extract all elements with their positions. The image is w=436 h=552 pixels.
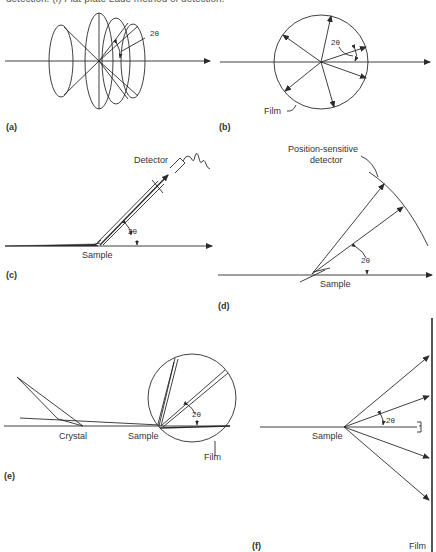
sample-label-e: Sample — [128, 431, 159, 441]
angle-label-d: 2θ — [361, 256, 370, 265]
film-label-e: Film — [204, 452, 221, 462]
detector-icon — [170, 158, 185, 173]
angle-label-f: 2θ — [386, 416, 395, 425]
diffraction-geometries-diagram: 2θ (a) 2θ Film (b) Detector 2θ Sample (c… — [0, 0, 436, 552]
beam-stop-icon — [417, 422, 421, 432]
sample-label-d: Sample — [320, 279, 351, 289]
angle-label-b: 2θ — [331, 38, 340, 47]
sample-label-f: Sample — [312, 431, 343, 441]
panel-c-diffractometer — [5, 153, 212, 246]
crystal-label: Crystal — [59, 431, 87, 441]
panel-a-cones — [5, 13, 210, 109]
panel-label-d: (d) — [218, 301, 230, 311]
panel-d-psd — [218, 156, 432, 282]
film-label-f: Film — [409, 541, 426, 551]
panel-label-f: (f) — [252, 541, 261, 551]
psd-label-line1: Position-sensitive — [288, 144, 358, 154]
detector-label: Detector — [134, 155, 168, 165]
film-label-b: Film — [264, 106, 281, 116]
panel-e-monochromator — [4, 354, 236, 456]
position-sensitive-detector-arc — [369, 172, 428, 246]
panel-label-b: (b) — [219, 122, 231, 132]
angle-label-e: 2θ — [192, 410, 201, 419]
angle-label-c: 2θ — [128, 227, 137, 236]
panel-label-a: (a) — [6, 122, 17, 132]
sample-label-c: Sample — [82, 250, 113, 260]
panel-label-e: (e) — [4, 471, 15, 481]
psd-label-line2: detector — [310, 155, 343, 165]
panel-b-film-circle — [220, 15, 430, 111]
panel-f-laue — [260, 318, 432, 552]
angle-label-a: 2θ — [150, 29, 159, 38]
panel-label-c: (c) — [6, 270, 17, 280]
